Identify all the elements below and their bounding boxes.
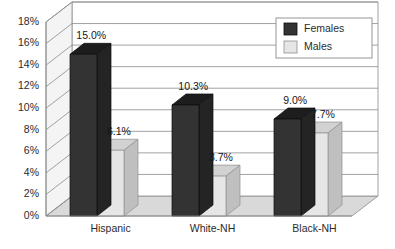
legend-label-females: Females xyxy=(304,22,344,34)
value-label-males: 6.1% xyxy=(107,125,131,137)
legend-swatch-females xyxy=(284,23,297,35)
y-axis-tick-label: 4% xyxy=(24,166,39,178)
x-axis-category-label: Hispanic xyxy=(90,222,130,234)
legend-label-males: Males xyxy=(304,40,332,52)
bar-females-hispanic xyxy=(70,43,111,216)
y-axis-tick-label: 16% xyxy=(18,36,39,48)
y-axis-tick-label: 12% xyxy=(18,79,39,91)
bar-front-face xyxy=(274,119,301,216)
y-axis-tick-label: 10% xyxy=(18,101,39,113)
x-axis-category-label: Black-NH xyxy=(292,222,336,234)
chart-side-wall xyxy=(46,2,72,216)
chart-container: 0%2%4%6%8%10%12%14%16%18%HispanicWhite-N… xyxy=(0,0,395,249)
y-axis-tick-label: 8% xyxy=(24,123,39,135)
x-axis-category-label: White-NH xyxy=(190,222,236,234)
bar-front-face xyxy=(70,54,97,216)
bar-side-face xyxy=(301,108,315,216)
bar-females-white-nh xyxy=(172,94,213,216)
y-axis-tick-label: 2% xyxy=(24,187,39,199)
bar-side-face xyxy=(328,122,342,216)
y-axis-tick-label: 18% xyxy=(18,15,39,27)
value-label-females: 10.3% xyxy=(178,80,208,92)
bar-side-face xyxy=(124,139,138,216)
value-label-males: 3.7% xyxy=(209,151,233,163)
grouped-3d-bar-chart: 0%2%4%6%8%10%12%14%16%18%HispanicWhite-N… xyxy=(0,0,395,249)
bar-females-black-nh xyxy=(274,108,315,216)
y-axis-tick-label: 0% xyxy=(24,209,39,221)
value-label-females: 9.0% xyxy=(283,94,307,106)
legend-swatch-males xyxy=(284,41,297,53)
value-label-males: 7.7% xyxy=(311,108,335,120)
bar-front-face xyxy=(172,105,199,216)
y-axis-tick-label: 6% xyxy=(24,144,39,156)
y-axis-tick-label: 14% xyxy=(18,58,39,70)
value-label-females: 15.0% xyxy=(76,29,106,41)
legend: FemalesMales xyxy=(276,18,372,58)
